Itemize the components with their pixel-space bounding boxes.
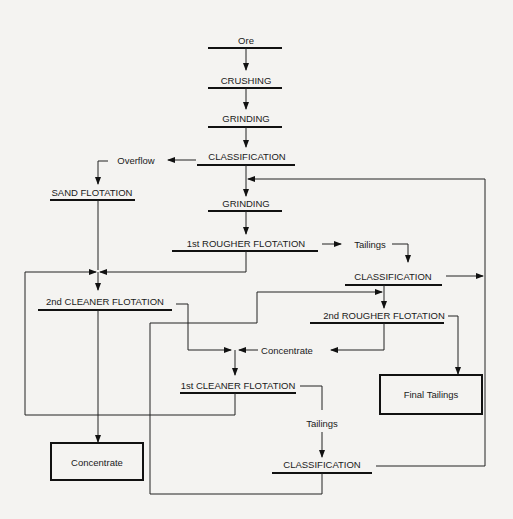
node-grinding-1: GRINDING bbox=[222, 113, 270, 124]
node-concentrate-box: Concentrate bbox=[71, 457, 123, 468]
arrow-cleaner2-tailings bbox=[176, 304, 231, 350]
node-classification-1: CLASSIFICATION bbox=[208, 151, 286, 162]
node-ore: Ore bbox=[238, 35, 254, 46]
label-concentrate-mid: Concentrate bbox=[261, 345, 313, 356]
arrow-rougher2-concentrate bbox=[331, 323, 384, 350]
node-2nd-rougher: 2nd ROUGHER FLOTATION bbox=[323, 310, 445, 321]
arrow-rougher1-concentrate bbox=[100, 251, 246, 272]
arrow-rougher2-final-tailings bbox=[448, 316, 458, 374]
arrow-overflow-sand bbox=[98, 161, 108, 184]
arrow-tailings-classification2 bbox=[392, 244, 408, 262]
line-cleaner1-tailings bbox=[300, 386, 322, 410]
node-classification-3: CLASSIFICATION bbox=[283, 459, 361, 470]
label-overflow: Overflow bbox=[117, 155, 155, 166]
node-sand-flotation: SAND FLOTATION bbox=[52, 187, 133, 198]
node-classification-2: CLASSIFICATION bbox=[354, 271, 432, 282]
node-final-tailings: Final Tailings bbox=[404, 389, 459, 400]
line-classification3-recycle bbox=[376, 436, 485, 466]
line-classification3-underflow bbox=[150, 473, 322, 494]
node-2nd-cleaner: 2nd CLEANER FLOTATION bbox=[46, 296, 164, 307]
node-crushing: CRUSHING bbox=[221, 75, 272, 86]
label-tailings-1: Tailings bbox=[354, 239, 386, 250]
flowsheet-diagram: Ore CRUSHING GRINDING CLASSIFICATION Ove… bbox=[0, 0, 513, 519]
node-1st-rougher: 1st ROUGHER FLOTATION bbox=[187, 238, 306, 249]
label-tailings-2: Tailings bbox=[306, 418, 338, 429]
node-1st-cleaner: 1st CLEANER FLOTATION bbox=[181, 380, 296, 391]
node-grinding-2: GRINDING bbox=[222, 198, 270, 209]
